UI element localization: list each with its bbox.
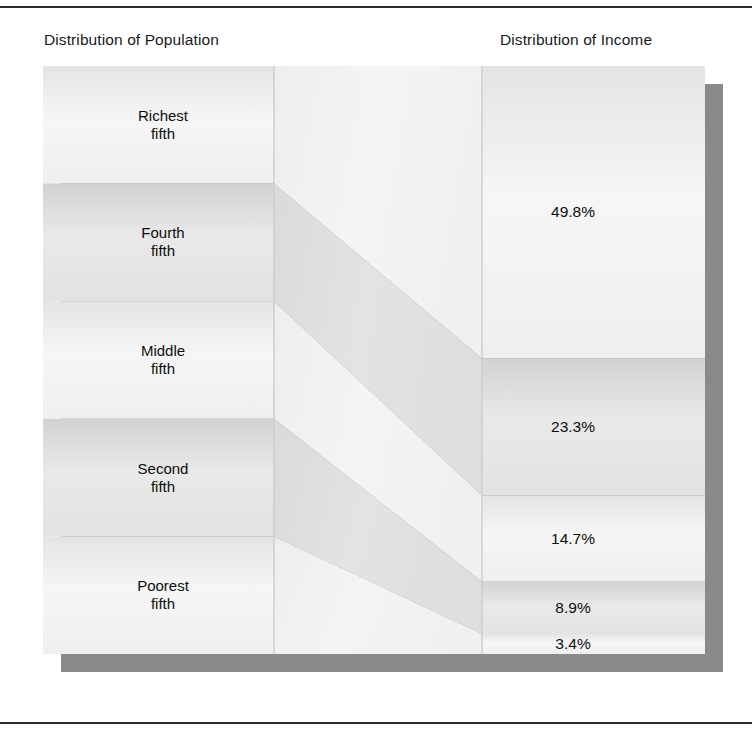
flow-diagram: Richest fifthFourth fifthMiddle fifthSec…: [43, 66, 705, 654]
income-band-middle-fifth: [482, 495, 705, 581]
income-band-poorest-fifth: [482, 634, 705, 654]
population-band-fourth-fifth: [43, 184, 274, 302]
income-band-fourth-fifth: [482, 359, 705, 496]
income-band-richest-fifth: [482, 66, 705, 359]
right-column-title: Distribution of Income: [500, 31, 652, 49]
population-band-middle-fifth: [43, 301, 274, 419]
top-rule: [0, 6, 752, 8]
flow-diagram-svg: [43, 66, 705, 654]
population-band-second-fifth: [43, 419, 274, 537]
population-band-poorest-fifth: [43, 536, 274, 654]
bottom-rule: [0, 722, 752, 724]
left-column-title: Distribution of Population: [44, 31, 219, 49]
income-band-second-fifth: [482, 582, 705, 634]
flow-diagram-canvas: [43, 66, 705, 654]
population-band-richest-fifth: [43, 66, 274, 184]
figure-page: Distribution of Population Distribution …: [0, 0, 752, 737]
